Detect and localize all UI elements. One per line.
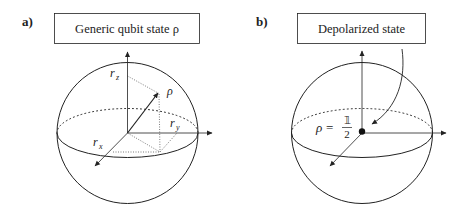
rho-vector-label: ρ bbox=[166, 84, 173, 98]
panel-a-title: Generic qubit state ρ bbox=[75, 22, 179, 36]
panel-b: b) Depolarized state ρ = 𝟙 2 bbox=[256, 14, 446, 204]
panel-b-title: Depolarized state bbox=[318, 22, 406, 36]
svg-text:=: = bbox=[326, 120, 333, 135]
rx-label: r x bbox=[93, 135, 103, 151]
bloch-sphere-b bbox=[292, 49, 447, 204]
svg-text:2: 2 bbox=[344, 128, 350, 140]
svg-text:r: r bbox=[110, 66, 115, 80]
rz-label: r z bbox=[110, 66, 120, 82]
bloch-sphere-a bbox=[57, 52, 212, 204]
panel-a: a) Generic qubit state ρ ρ r bbox=[22, 14, 212, 204]
svg-text:r: r bbox=[170, 116, 175, 130]
svg-text:ρ: ρ bbox=[315, 120, 322, 135]
pointer-arrow bbox=[372, 49, 403, 124]
svg-text:y: y bbox=[175, 123, 180, 132]
ry-label: r y bbox=[170, 116, 180, 132]
maximally-mixed-point bbox=[359, 128, 365, 134]
bloch-sphere-figure: a) Generic qubit state ρ ρ r bbox=[0, 0, 466, 207]
svg-text:r: r bbox=[93, 135, 98, 149]
depolarized-state-label: ρ = 𝟙 2 bbox=[315, 114, 352, 140]
svg-text:x: x bbox=[98, 142, 103, 151]
svg-text:z: z bbox=[115, 73, 120, 82]
panel-a-label: a) bbox=[22, 14, 33, 29]
svg-text:𝟙: 𝟙 bbox=[344, 114, 351, 126]
panel-b-label: b) bbox=[256, 14, 268, 29]
